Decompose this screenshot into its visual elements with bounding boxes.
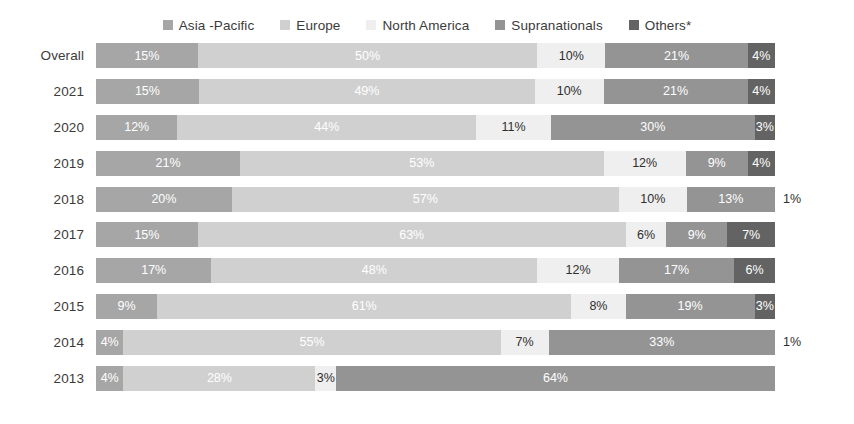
chart-row: Overall15%50%10%21%4% (0, 38, 854, 74)
bar-segment[interactable]: 48% (211, 258, 537, 283)
bar-segment[interactable]: 10% (535, 79, 604, 104)
bar-segment-value: 17% (141, 264, 166, 277)
stacked-bar[interactable]: 12%44%11%30%3% (96, 115, 775, 140)
chart-row: 201715%63%6%9%7% (0, 217, 854, 253)
bar-segment-value: 63% (399, 229, 424, 242)
bar-segment-value: 4% (101, 336, 119, 349)
bar-segment[interactable]: 15% (96, 222, 198, 247)
bar-segment-value: 61% (352, 300, 377, 313)
bar-container: 15%49%10%21%4% (96, 74, 854, 110)
bar-segment[interactable]: 6% (734, 258, 775, 283)
legend-item[interactable]: Europe (280, 18, 340, 33)
bar-segment[interactable]: 19% (626, 294, 755, 319)
bar-segment[interactable]: 55% (123, 330, 500, 355)
bar-segment[interactable]: 17% (619, 258, 734, 283)
legend-item[interactable]: Asia -Pacific (163, 18, 255, 33)
bar-segment[interactable]: 4% (748, 151, 775, 176)
bar-segment-value: 12% (632, 157, 657, 170)
stacked-bar[interactable]: 17%48%12%17%6% (96, 258, 775, 283)
chart-legend: Asia -PacificEuropeNorth AmericaSupranat… (0, 12, 854, 38)
bar-segment[interactable]: 10% (619, 187, 687, 212)
bar-segment[interactable]: 13% (687, 187, 775, 212)
bar-segment-value: 49% (354, 85, 379, 98)
bar-container: 4%28%3%64% (96, 360, 854, 396)
bar-segment[interactable]: 11% (476, 115, 551, 140)
bar-segment[interactable]: 20% (96, 187, 232, 212)
bar-segment-value: 4% (752, 50, 770, 63)
legend-swatch-icon (280, 20, 290, 30)
bar-segment[interactable]: 57% (232, 187, 619, 212)
bar-segment-value: 3% (756, 121, 774, 134)
bar-segment-value: 17% (664, 264, 689, 277)
bar-segment[interactable]: 44% (177, 115, 476, 140)
bar-segment[interactable]: 15% (96, 79, 199, 104)
bar-segment[interactable]: 17% (96, 258, 211, 283)
legend-swatch-icon (629, 20, 639, 30)
bar-segment[interactable]: 12% (537, 258, 618, 283)
bar-segment[interactable]: 8% (571, 294, 625, 319)
legend-item[interactable]: Others* (629, 18, 691, 33)
bar-segment[interactable]: 4% (748, 79, 775, 104)
bar-segment-value: 9% (118, 300, 136, 313)
legend-item[interactable]: North America (366, 18, 469, 33)
bar-segment[interactable]: 64% (336, 366, 775, 391)
bar-container: 21%53%12%9%4% (96, 145, 854, 181)
bar-segment-value: 10% (557, 85, 582, 98)
bar-segment[interactable]: 4% (96, 330, 123, 355)
bar-segment[interactable]: 28% (123, 366, 315, 391)
bar-segment-value: 9% (688, 229, 706, 242)
stacked-bar[interactable]: 15%50%10%21%4% (96, 43, 775, 68)
bar-segment-value: 19% (678, 300, 703, 313)
bar-container: 17%48%12%17%6% (96, 253, 854, 289)
stacked-bar[interactable]: 21%53%12%9%4% (96, 151, 775, 176)
bar-segment[interactable]: 6% (626, 222, 667, 247)
bar-segment[interactable]: 9% (686, 151, 748, 176)
bar-segment[interactable]: 30% (551, 115, 755, 140)
bar-segment[interactable]: 21% (96, 151, 240, 176)
row-category-label: 2018 (0, 192, 96, 207)
stacked-bar[interactable]: 20%57%10%13% (96, 187, 775, 212)
bar-segment[interactable]: 49% (199, 79, 535, 104)
stacked-bar[interactable]: 15%49%10%21%4% (96, 79, 775, 104)
bar-segment-value: 9% (708, 157, 726, 170)
bar-segment[interactable]: 21% (605, 43, 748, 68)
row-category-label: 2017 (0, 227, 96, 242)
bar-segment-value: 64% (543, 372, 568, 385)
bar-segment-value: 3% (756, 300, 774, 313)
bar-segment[interactable]: 3% (315, 366, 336, 391)
legend-item[interactable]: Supranationals (495, 18, 602, 33)
bar-segment[interactable]: 12% (96, 115, 177, 140)
bar-segment[interactable]: 4% (748, 43, 775, 68)
bar-segment[interactable]: 9% (96, 294, 157, 319)
bar-segment-value: 4% (752, 85, 770, 98)
bar-segment[interactable]: 15% (96, 43, 198, 68)
bar-segment[interactable]: 53% (240, 151, 604, 176)
legend-item-label: Asia -Pacific (179, 18, 255, 33)
bar-segment-value: 33% (649, 336, 674, 349)
bar-outside-value: 1% (775, 192, 801, 206)
bar-segment-value: 50% (355, 50, 380, 63)
stacked-bar[interactable]: 4%28%3%64% (96, 366, 775, 391)
bar-segment[interactable]: 12% (604, 151, 686, 176)
bar-segment-value: 10% (640, 193, 665, 206)
bar-segment[interactable]: 21% (604, 79, 748, 104)
bar-segment[interactable]: 7% (501, 330, 549, 355)
bar-segment-value: 30% (640, 121, 665, 134)
bar-segment[interactable]: 4% (96, 366, 123, 391)
bar-segment[interactable]: 50% (198, 43, 538, 68)
bar-segment[interactable]: 61% (157, 294, 571, 319)
bar-segment-value: 21% (663, 85, 688, 98)
bar-segment[interactable]: 10% (537, 43, 605, 68)
stacked-bar[interactable]: 15%63%6%9%7% (96, 222, 775, 247)
stacked-bar[interactable]: 4%55%7%33% (96, 330, 775, 355)
bar-segment[interactable]: 9% (666, 222, 727, 247)
bar-segment[interactable]: 33% (549, 330, 775, 355)
bar-segment[interactable]: 3% (755, 115, 775, 140)
legend-item-label: Supranationals (511, 18, 602, 33)
stacked-bar[interactable]: 9%61%8%19%3% (96, 294, 775, 319)
bar-segment[interactable]: 63% (198, 222, 626, 247)
row-category-label: 2013 (0, 371, 96, 386)
bar-segment[interactable]: 3% (755, 294, 775, 319)
bar-segment[interactable]: 7% (727, 222, 775, 247)
legend-item-label: Others* (645, 18, 691, 33)
